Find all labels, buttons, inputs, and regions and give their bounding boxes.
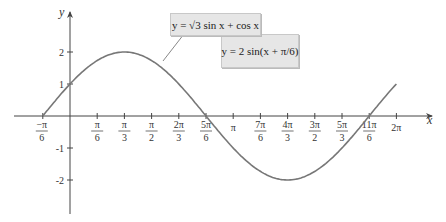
legend-label-1-text: y = √3 sin x + cos x [172,19,259,31]
x-tick-label-denominator: 6 [367,132,372,143]
x-tick-label: 11π [362,119,377,130]
y-tick-label: 2 [59,47,64,58]
x-tick-label-denominator: 3 [176,132,181,143]
x-tick-label: π [122,119,127,130]
y-tick-label: 1 [59,79,64,90]
x-tick-label-denominator: 6 [39,132,44,143]
legend-label-2-text: y = 2 sin(x + π/6) [222,45,299,57]
x-tick-label: 4π [283,119,293,130]
x-tick-label-denominator: 3 [122,132,127,143]
x-tick-label: 2π [391,122,401,133]
x-ticks: −π6π6π3π22π35π6π7π64π33π25π311π62π [36,113,402,143]
x-tick-label-denominator: 3 [340,132,345,143]
x-tick-label: 7π [255,119,265,130]
x-tick-label-denominator: 2 [312,132,317,143]
x-tick-label: π [231,122,236,133]
legend-label-2: y = 2 sin(x + π/6) [221,34,299,68]
x-tick-label-denominator: 3 [285,132,290,143]
y-tick-label: -1 [56,143,64,154]
legend-label-1: y = √3 sin x + cos x [170,13,261,36]
y-axis-label: y [58,5,65,19]
x-tick-label: −π [36,119,47,130]
x-tick-label: π [95,119,100,130]
x-tick-label: 5π [337,119,347,130]
x-tick-label: 3π [310,119,320,130]
x-tick-label-denominator: 6 [258,132,263,143]
x-tick-label-denominator: 6 [95,132,100,143]
legend-pointer [163,34,184,61]
x-tick-label-denominator: 6 [204,132,209,143]
y-tick-label: -2 [56,175,64,186]
x-tick-label: π [149,119,154,130]
x-tick-label: 2π [174,119,184,130]
x-axis-label: x [426,113,433,127]
x-tick-label-denominator: 2 [149,132,154,143]
